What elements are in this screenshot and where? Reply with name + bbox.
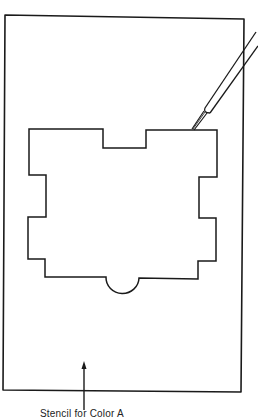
stencil-sheet [3,15,244,392]
figure-caption: Stencil for Color A [40,408,124,419]
